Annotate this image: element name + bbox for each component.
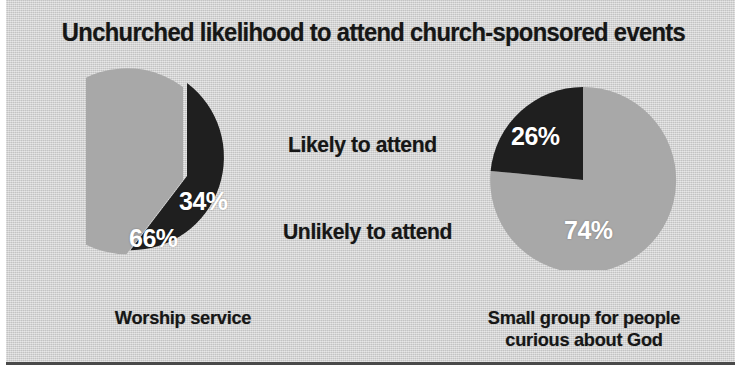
pie-svg-worship-service xyxy=(86,64,286,300)
pie-value-label-unlikely-small-group: 74% xyxy=(564,216,613,245)
bottom-rule-divider xyxy=(6,362,735,365)
pie-chart-small-group: 26% 74% xyxy=(488,70,688,270)
pie-value-label-likely-worship: 34% xyxy=(179,187,228,216)
legend-item-likely: Likely to attend xyxy=(288,132,437,158)
pie-value-label-unlikely-worship: 66% xyxy=(129,224,178,253)
legend-item-unlikely: Unlikely to attend xyxy=(283,219,452,245)
chart-figure: Unchurched likelihood to attend church-s… xyxy=(0,0,747,384)
pie-caption-small-group-line2: curious about God xyxy=(450,329,719,351)
pie-caption-worship-service: Worship service xyxy=(87,307,279,329)
pie-chart-worship-service: 34% 66% xyxy=(86,64,286,300)
pie-caption-small-group-line1: Small group for people xyxy=(450,307,719,329)
pie-value-label-likely-small-group: 26% xyxy=(511,122,560,151)
page-title: Unchurched likelihood to attend church-s… xyxy=(19,18,729,47)
pie-caption-small-group: Small group for people curious about God xyxy=(450,307,719,352)
